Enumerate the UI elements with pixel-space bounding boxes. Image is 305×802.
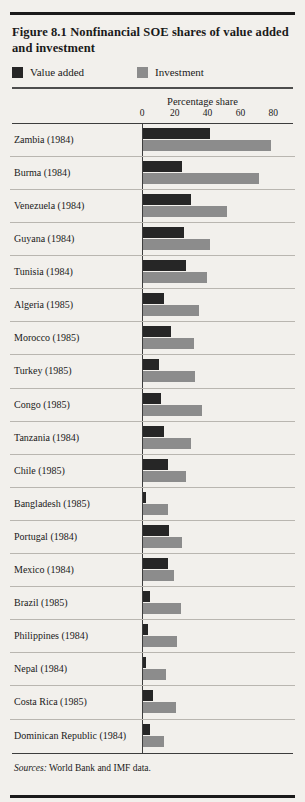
bar-value-added <box>143 161 182 172</box>
x-axis-tick-row: 020406080 <box>10 108 295 122</box>
bar-value-added <box>143 624 148 635</box>
bar-investment <box>143 504 168 515</box>
category-label: Dominican Republic (1984) <box>14 730 126 741</box>
bar-investment <box>143 272 207 283</box>
bar-value-added <box>143 128 210 139</box>
bar-value-added <box>143 326 171 337</box>
bar-value-added <box>143 657 146 668</box>
category-label: Brazil (1985) <box>14 597 68 608</box>
category-label: Turkey (1985) <box>14 365 72 376</box>
legend-item-value-added: Value added <box>12 66 137 78</box>
legend-swatch-value-added-icon <box>12 67 23 78</box>
chart-bottom-rule <box>12 753 293 754</box>
legend-label-investment: Investment <box>155 66 204 78</box>
bar-investment <box>143 371 195 382</box>
bar-investment <box>143 173 259 184</box>
bar-investment <box>143 239 210 250</box>
category-label: Congo (1985) <box>14 399 70 410</box>
x-axis-title: Percentage share <box>10 96 295 107</box>
chart-legend: Value added Investment <box>12 66 293 78</box>
bar-investment <box>143 537 182 548</box>
category-label: Nepal (1984) <box>14 663 67 674</box>
x-axis-tick-40: 40 <box>203 108 213 118</box>
bar-value-added <box>143 525 169 536</box>
chart-row: Tunisia (1984) <box>10 256 295 289</box>
category-label: Philippines (1984) <box>14 630 88 641</box>
x-axis-tick-60: 60 <box>236 108 246 118</box>
chart-row: Nepal (1984) <box>10 653 295 686</box>
chart-row: Venezuela (1984) <box>10 190 295 223</box>
chart-row: Burma (1984) <box>10 157 295 190</box>
bar-value-added <box>143 227 184 238</box>
bar-investment <box>143 702 176 713</box>
bar-investment <box>143 669 166 680</box>
bottom-rule <box>10 795 295 798</box>
bar-investment <box>143 438 191 449</box>
chart-row: Morocco (1985) <box>10 322 295 355</box>
bar-investment <box>143 405 202 416</box>
chart-row: Costa Rica (1985) <box>10 686 295 719</box>
category-label: Chile (1985) <box>14 465 65 476</box>
bar-rows: Zambia (1984)Burma (1984)Venezuela (1984… <box>10 124 295 753</box>
bar-investment <box>143 206 227 217</box>
chart-row: Congo (1985) <box>10 389 295 422</box>
chart-row: Tanzania (1984) <box>10 422 295 455</box>
category-label: Mexico (1984) <box>14 564 74 575</box>
chart-row: Brazil (1985) <box>10 587 295 620</box>
bar-value-added <box>143 359 159 370</box>
chart-row: Dominican Republic (1984) <box>10 720 295 753</box>
chart-row: Algeria (1985) <box>10 289 295 322</box>
category-label: Burma (1984) <box>14 167 70 178</box>
category-label: Bangladesh (1985) <box>14 498 90 509</box>
category-label: Portugal (1984) <box>14 531 77 542</box>
bar-value-added <box>143 591 150 602</box>
bar-investment <box>143 603 181 614</box>
bar-investment <box>143 471 186 482</box>
legend-item-investment: Investment <box>137 66 204 78</box>
bar-value-added <box>143 293 164 304</box>
category-label: Venezuela (1984) <box>14 200 84 211</box>
figure-title: Figure 8.1 Nonfinancial SOE shares of va… <box>12 25 293 56</box>
chart-row: Philippines (1984) <box>10 620 295 653</box>
source-label: Sources: <box>14 763 47 773</box>
bar-value-added <box>143 690 153 701</box>
x-axis-tick-0: 0 <box>140 108 145 118</box>
category-label: Tunisia (1984) <box>14 266 73 277</box>
chart-row: Turkey (1985) <box>10 355 295 388</box>
bar-investment <box>143 570 174 581</box>
bar-value-added <box>143 393 161 404</box>
bar-value-added <box>143 492 146 503</box>
x-axis-tick-80: 80 <box>268 108 278 118</box>
bar-value-added <box>143 194 191 205</box>
top-rule <box>10 12 295 15</box>
bar-investment <box>143 140 271 151</box>
chart-plot-area: 020406080 Zambia (1984)Burma (1984)Venez… <box>10 108 295 754</box>
category-label: Tanzania (1984) <box>14 432 79 443</box>
bar-value-added <box>143 260 186 271</box>
bar-value-added <box>143 724 150 735</box>
category-label: Algeria (1985) <box>14 299 73 310</box>
bar-value-added <box>143 558 168 569</box>
legend-label-value-added: Value added <box>30 66 84 78</box>
legend-swatch-investment-icon <box>137 67 148 78</box>
chart-row: Zambia (1984) <box>10 124 295 157</box>
source-note: Sources: World Bank and IMF data. <box>14 763 291 773</box>
category-label: Costa Rica (1985) <box>14 696 87 707</box>
bar-investment <box>143 736 164 747</box>
category-label: Morocco (1985) <box>14 332 79 343</box>
chart-row: Portugal (1984) <box>10 521 295 554</box>
bar-investment <box>143 305 199 316</box>
category-label: Guyana (1984) <box>14 233 74 244</box>
source-text: World Bank and IMF data. <box>47 763 151 773</box>
chart-row: Mexico (1984) <box>10 554 295 587</box>
figure-panel: Figure 8.1 Nonfinancial SOE shares of va… <box>0 12 305 802</box>
x-axis-tick-20: 20 <box>170 108 180 118</box>
header-divider <box>12 87 293 88</box>
chart-row: Chile (1985) <box>10 455 295 488</box>
category-label: Zambia (1984) <box>14 134 74 145</box>
bar-value-added <box>143 459 168 470</box>
bar-investment <box>143 636 177 647</box>
chart-row: Bangladesh (1985) <box>10 488 295 521</box>
bar-value-added <box>143 426 164 437</box>
chart-row: Guyana (1984) <box>10 223 295 256</box>
